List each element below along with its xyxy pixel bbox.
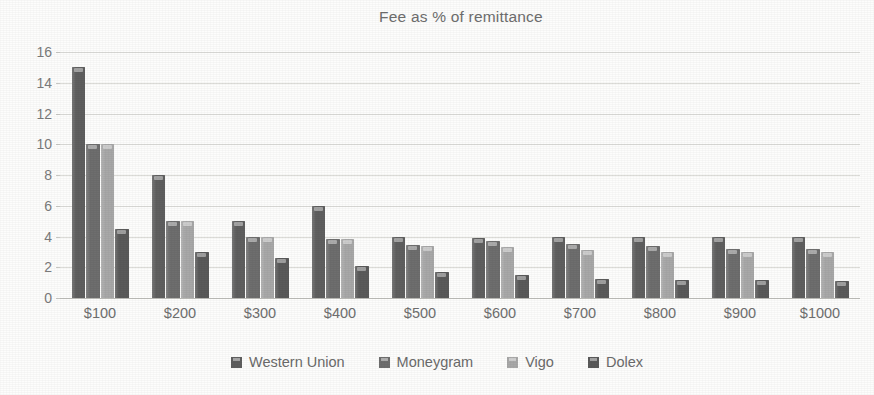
x-tick-label-3: $300 [244, 305, 276, 321]
bar[interactable] [646, 246, 660, 298]
bar[interactable] [755, 280, 769, 298]
bar[interactable] [806, 249, 820, 298]
bar-sheen [341, 239, 345, 298]
bar-sheen [435, 272, 439, 298]
bar[interactable] [515, 275, 529, 298]
legend-swatch-icon [379, 357, 390, 368]
bar[interactable] [115, 229, 129, 298]
bar[interactable] [595, 279, 609, 298]
y-tick-label-14: 14 [8, 75, 52, 91]
bar-sheen [406, 245, 410, 298]
bar[interactable] [821, 252, 835, 298]
bar[interactable] [166, 221, 180, 298]
bar[interactable] [275, 258, 289, 298]
bar[interactable] [675, 280, 689, 298]
x-tick-label-8: $800 [644, 305, 676, 321]
bar-group [620, 52, 700, 298]
bar[interactable] [792, 237, 806, 299]
bar[interactable] [726, 249, 740, 298]
bar[interactable] [486, 241, 500, 298]
legend-label: Western Union [249, 354, 345, 370]
bar[interactable] [261, 237, 275, 299]
bar[interactable] [472, 238, 486, 298]
bar[interactable] [232, 221, 246, 298]
bar-group [460, 52, 540, 298]
bar-sheen [821, 252, 825, 298]
bar-sheen [392, 237, 396, 299]
bar-group [540, 52, 620, 298]
bar-sheen [741, 252, 745, 298]
legend-item-western-union[interactable]: Western Union [231, 354, 345, 370]
bar[interactable] [246, 237, 260, 299]
bar-sheen [595, 279, 599, 298]
y-tick-label-2: 2 [8, 259, 52, 275]
bar-sheen [552, 237, 556, 299]
gridline-0 [60, 298, 860, 299]
bar[interactable] [312, 206, 326, 298]
bar[interactable] [741, 252, 755, 298]
bar-sheen [246, 237, 250, 299]
bar[interactable] [581, 250, 595, 298]
bar-sheen [726, 249, 730, 298]
legend-swatch-highlight [509, 358, 516, 361]
bar-sheen [326, 239, 330, 298]
bar-group [300, 52, 380, 298]
legend-label: Moneygram [397, 354, 474, 370]
bar-sheen [712, 237, 716, 299]
bar-group [780, 52, 860, 298]
x-tick-label-1: $100 [84, 305, 116, 321]
bar[interactable] [152, 175, 166, 298]
bar-sheen [486, 241, 490, 298]
bar-sheen [166, 221, 170, 298]
legend-swatch-highlight [233, 358, 240, 361]
bar[interactable] [72, 67, 86, 298]
bar-sheen [355, 266, 359, 298]
bar[interactable] [341, 239, 355, 298]
bar[interactable] [501, 247, 515, 298]
legend-label: Dolex [606, 354, 643, 370]
bar[interactable] [435, 272, 449, 298]
bar[interactable] [406, 245, 420, 298]
bar[interactable] [326, 239, 340, 298]
x-tick-label-4: $400 [324, 305, 356, 321]
bar[interactable] [392, 237, 406, 299]
y-tick-label-16: 16 [8, 44, 52, 60]
x-tick-label-9: $900 [724, 305, 756, 321]
bar-group [140, 52, 220, 298]
legend-item-moneygram[interactable]: Moneygram [379, 354, 474, 370]
legend-swatch-icon [507, 357, 518, 368]
x-axis: $100$200$300$400$500$600$700$800$900$100… [60, 305, 860, 331]
bar-sheen [472, 238, 476, 298]
legend-label: Vigo [525, 354, 554, 370]
bar[interactable] [632, 237, 646, 299]
bar-sheen [755, 280, 759, 298]
bar-sheen [806, 249, 810, 298]
bar-sheen [835, 281, 839, 298]
bar-sheen [275, 258, 279, 298]
x-tick-label-7: $700 [564, 305, 596, 321]
bar[interactable] [421, 246, 435, 298]
legend-swatch-highlight [381, 358, 388, 361]
bar-sheen [181, 221, 185, 298]
bar-sheen [566, 244, 570, 298]
bar[interactable] [101, 144, 115, 298]
legend-item-dolex[interactable]: Dolex [588, 354, 643, 370]
bar-sheen [675, 280, 679, 298]
bar-sheen [501, 247, 505, 298]
bar-sheen [86, 144, 90, 298]
bar[interactable] [661, 252, 675, 298]
legend-item-vigo[interactable]: Vigo [507, 354, 554, 370]
bar[interactable] [181, 221, 195, 298]
bar-group [380, 52, 460, 298]
bar[interactable] [712, 237, 726, 299]
x-tick-label-2: $200 [164, 305, 196, 321]
bar[interactable] [835, 281, 849, 298]
x-tick-label-6: $600 [484, 305, 516, 321]
bar[interactable] [566, 244, 580, 298]
bar[interactable] [195, 252, 209, 298]
bar[interactable] [86, 144, 100, 298]
bar-sheen [421, 246, 425, 298]
x-tick-label-10: $1000 [800, 305, 840, 321]
bar[interactable] [355, 266, 369, 298]
bar[interactable] [552, 237, 566, 299]
